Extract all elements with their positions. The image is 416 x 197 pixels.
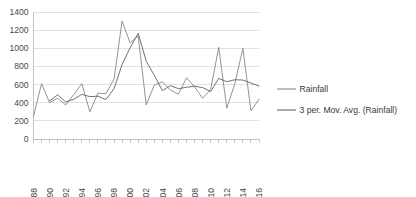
series-line-2 [50, 33, 259, 102]
x-axis-tick-label: 2004 [158, 188, 168, 197]
legend-label-1: Rainfall [300, 84, 329, 94]
x-axis-tick-label: 2012 [222, 188, 232, 197]
y-axis-tick-label: 1000 [9, 43, 28, 53]
series-layer [34, 21, 260, 116]
y-axis-tick-label: 0 [24, 134, 29, 144]
x-axis-tick-label: 1988 [29, 188, 39, 197]
x-axis-tick-label: 2016 [254, 188, 264, 197]
y-axis-tick-label: 1200 [9, 25, 28, 35]
x-axis-tick-label: 1992 [61, 188, 71, 197]
y-axis-tick-label: 600 [14, 80, 29, 90]
x-axis-tick-label: 2010 [206, 188, 216, 197]
x-axis-tick-label: 2000 [125, 188, 135, 197]
x-axis-tick-label: 1998 [109, 188, 119, 197]
x-axis-tick-label: 1994 [77, 188, 87, 197]
y-axis-tick-label: 200 [14, 116, 29, 126]
y-axis-tick-labels: 0200400600800100012001400 [9, 7, 28, 144]
x-axis-tick-label: 1990 [45, 188, 55, 197]
y-axis-tick-label: 800 [14, 61, 29, 71]
x-axis-tick-labels: 1988199019921994199619982000200220042006… [29, 188, 265, 197]
series-line-1 [34, 21, 260, 116]
x-axis-tick-label: 2006 [174, 188, 184, 197]
legend-label-2: 3 per. Mov. Avg. (Rainfall) [300, 105, 398, 115]
x-axis-tickmarks [34, 139, 260, 143]
y-axis-tick-label: 1400 [9, 7, 28, 17]
y-axis-tick-label: 400 [14, 98, 29, 108]
chart-canvas: 0200400600800100012001400 19881990199219… [0, 0, 416, 197]
x-axis-tick-label: 2014 [238, 188, 248, 197]
x-axis-tick-label: 2002 [141, 188, 151, 197]
axis-lines [34, 12, 260, 139]
gridline-group [34, 12, 260, 139]
rainfall-line-chart: 0200400600800100012001400 19881990199219… [0, 0, 416, 197]
x-axis-tick-label: 2008 [190, 188, 200, 197]
x-axis-tick-label: 1996 [93, 188, 103, 197]
chart-legend: Rainfall3 per. Mov. Avg. (Rainfall) [277, 84, 397, 115]
